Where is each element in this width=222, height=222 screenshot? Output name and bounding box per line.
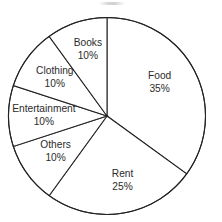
slice-label-value-rent: 25% <box>112 181 132 192</box>
slice-label-name-clothing: Clothing <box>36 65 74 76</box>
slice-label-value-books: 10% <box>78 50 98 61</box>
pie-chart-svg: Food35%Rent25%Others10%Entertainment10%C… <box>0 0 222 222</box>
slice-label-value-entertainment: 10% <box>34 116 54 127</box>
slice-label-name-entertainment: Entertainment <box>12 103 76 114</box>
slice-label-name-food: Food <box>148 70 172 81</box>
slice-label-name-rent: Rent <box>112 168 134 179</box>
slice-label-value-others: 10% <box>45 152 65 163</box>
slice-label-value-food: 35% <box>149 83 169 94</box>
slice-label-name-books: Books <box>74 37 102 48</box>
slice-label-name-others: Others <box>40 139 71 150</box>
pie-chart-figure: Food35%Rent25%Others10%Entertainment10%C… <box>0 0 222 222</box>
slice-label-value-clothing: 10% <box>45 78 65 89</box>
